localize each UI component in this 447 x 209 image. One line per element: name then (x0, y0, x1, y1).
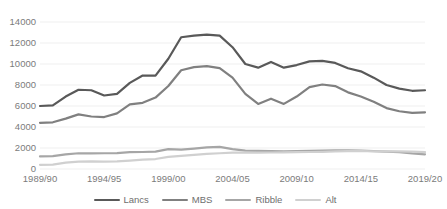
legend-swatch-icon (94, 199, 120, 202)
y-axis-tick-label: 8000 (2, 80, 36, 90)
x-axis-tick-label: 2004/05 (203, 173, 263, 184)
x-axis-tick-label: 1994/95 (74, 173, 134, 184)
series-lines (40, 35, 425, 165)
legend-swatch-icon (295, 199, 321, 202)
y-axis-tick-label: 10000 (2, 59, 36, 69)
series-line-lancs (40, 35, 425, 106)
y-axis-tick-label: 2000 (2, 143, 36, 153)
x-axis-tick-label: 1999/00 (138, 173, 198, 184)
x-axis-tick-label: 1989/90 (10, 173, 70, 184)
x-axis-tick-label: 2014/15 (331, 173, 391, 184)
x-axis-tick-label: 2019/20 (395, 173, 447, 184)
legend-swatch-icon (225, 199, 251, 202)
legend-label: MBS (192, 195, 213, 205)
legend-label: Lancs (124, 195, 149, 205)
y-axis-tick-label: 4000 (2, 122, 36, 132)
legend-item-alt[interactable]: Alt (295, 195, 336, 205)
legend-label: Ribble (255, 195, 282, 205)
y-axis-tick-label: 12000 (2, 38, 36, 48)
chart-legend: LancsMBSRibbleAlt (0, 193, 430, 207)
legend-item-mbs[interactable]: MBS (162, 195, 213, 205)
x-axis-tick-label: 2009/10 (267, 173, 327, 184)
legend-swatch-icon (162, 199, 188, 202)
gridlines (40, 22, 425, 169)
legend-label: Alt (325, 195, 336, 205)
y-axis-tick-label: 6000 (2, 101, 36, 111)
legend-item-lancs[interactable]: Lancs (94, 195, 149, 205)
y-axis-tick-label: 14000 (2, 17, 36, 27)
legend-item-ribble[interactable]: Ribble (225, 195, 282, 205)
